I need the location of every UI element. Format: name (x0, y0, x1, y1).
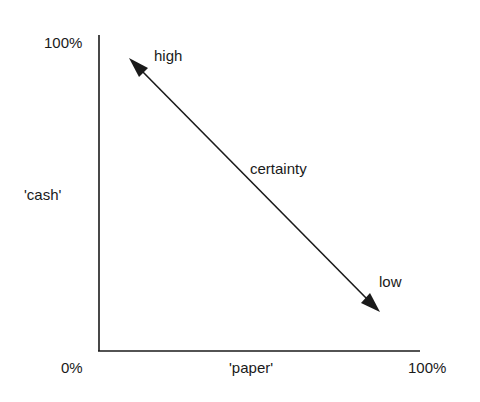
certainty-arrow (129, 58, 380, 312)
x-axis-name: 'paper' (229, 360, 273, 375)
arrow-start-label: high (154, 48, 182, 63)
arrow-end-label: low (379, 274, 402, 289)
y-axis-name: 'cash' (24, 187, 61, 202)
y-axis-top-label: 100% (44, 35, 82, 50)
x-axis-right-label: 100% (408, 360, 446, 375)
arrow-label: certainty (250, 161, 307, 176)
diagram-canvas (0, 0, 480, 402)
x-axis-left-label: 0% (61, 360, 83, 375)
